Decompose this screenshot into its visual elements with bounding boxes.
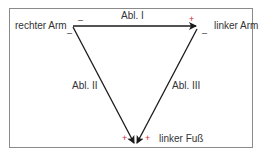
left-arm-lead3-minus: – <box>202 29 207 38</box>
lead3-label: Abl. III <box>172 81 200 91</box>
right-arm-lead2-minus: – <box>67 29 72 38</box>
right-arm-lead1-minus: – <box>78 16 83 25</box>
left-foot-lead2-plus: + <box>122 134 127 143</box>
lead1-label: Abl. I <box>121 11 144 21</box>
right-arm-label: rechter Arm <box>15 21 67 31</box>
left-arm-label: linker Arm <box>214 21 258 31</box>
lead2-label: Abl. II <box>72 81 98 91</box>
left-foot-lead3-plus: + <box>145 134 150 143</box>
left-arm-lead1-plus: + <box>189 15 194 24</box>
left-foot-label: linker Fuß <box>159 134 203 144</box>
